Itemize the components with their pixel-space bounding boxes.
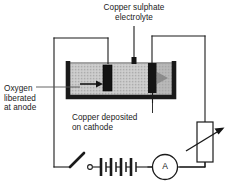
ammeter-symbol-label: A <box>156 161 174 171</box>
label-copper-sulphate-electrolyte: Copper sulphate electrolyte <box>86 3 182 22</box>
electrolysis-circuit-diagram: Copper sulphate electrolyte Oxygen liber… <box>0 0 234 190</box>
label-copper-deposited-on-cathode: Copper deposited on cathode <box>72 113 168 132</box>
electrolyte-pointer-tip <box>132 57 137 64</box>
switch-blade[interactable] <box>70 153 84 167</box>
open-switch[interactable] <box>70 153 92 169</box>
circuit-wiring <box>54 36 205 167</box>
battery-cells <box>93 158 152 176</box>
anode-electrode <box>103 65 112 91</box>
variable-resistor[interactable] <box>186 122 225 167</box>
switch-contact-terminal[interactable] <box>88 165 93 170</box>
label-oxygen-liberated-at-anode: Oxygen liberated at anode <box>4 84 58 113</box>
electrolyte-leader <box>132 26 137 64</box>
anode-plate <box>103 65 112 91</box>
